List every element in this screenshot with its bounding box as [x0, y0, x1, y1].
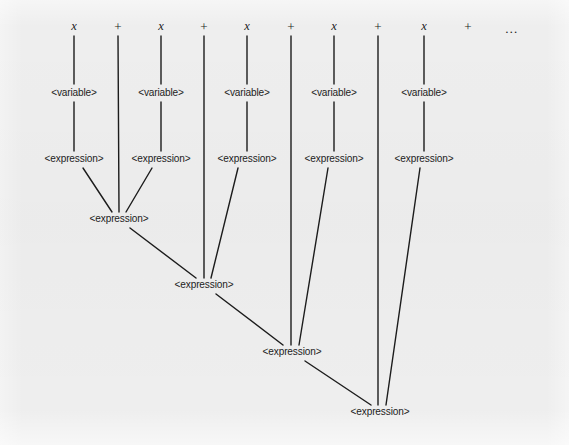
tree-edge-E3-E4 — [216, 294, 283, 345]
tree-node-op2: + — [198, 20, 209, 33]
tree-node-t5: x — [419, 20, 429, 33]
tree-node-e4: <expression> — [303, 153, 365, 164]
tree-node-e3: <expression> — [216, 153, 278, 164]
tree-edge-E4-E5 — [305, 361, 371, 405]
tree-node-ell: … — [503, 22, 522, 35]
tree-edge-e5-E5 — [386, 168, 420, 405]
tree-node-v2: <variable> — [136, 87, 185, 98]
tree-node-v3: <variable> — [222, 87, 271, 98]
tree-node-E3: <expression> — [173, 279, 235, 290]
tree-node-e1: <expression> — [43, 153, 105, 164]
tree-edge-e2-E2 — [126, 168, 152, 212]
tree-edge-E2-E3 — [130, 228, 196, 278]
tree-node-op5: + — [462, 20, 473, 33]
tree-node-E5: <expression> — [349, 406, 411, 417]
tree-node-t3: x — [242, 20, 252, 33]
tree-node-e5: <expression> — [393, 153, 455, 164]
tree-node-e2: <expression> — [130, 153, 192, 164]
tree-node-t2: x — [156, 20, 166, 33]
tree-node-v4: <variable> — [309, 87, 358, 98]
tree-edge-e1-E2 — [83, 168, 112, 212]
tree-node-E2: <expression> — [88, 213, 150, 224]
tree-edge-e4-E4 — [299, 168, 328, 345]
tree-node-t4: x — [329, 20, 339, 33]
tree-edge-op1-E2 — [118, 36, 119, 212]
tree-edge-e3-E3 — [211, 168, 238, 278]
tree-node-op1: + — [112, 20, 123, 33]
tree-node-op3: + — [285, 20, 296, 33]
tree-node-v1: <variable> — [49, 87, 98, 98]
tree-edges-layer — [0, 0, 569, 445]
tree-node-t1: x — [69, 20, 79, 33]
parse-tree-figure: x+x+x+x+x+…<variable><variable><variable… — [0, 0, 569, 445]
tree-node-E4: <expression> — [261, 346, 323, 357]
tree-node-op4: + — [372, 20, 383, 33]
tree-node-v5: <variable> — [399, 87, 448, 98]
